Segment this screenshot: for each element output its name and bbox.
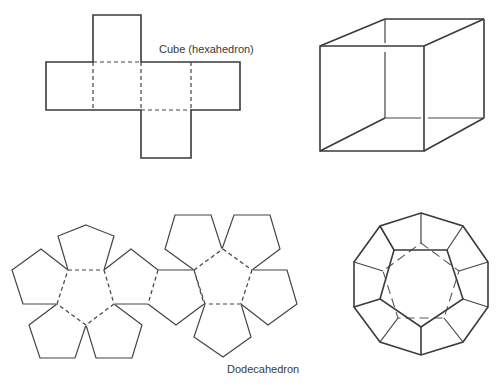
dodecahedron-net xyxy=(12,215,297,358)
cube-edge xyxy=(424,118,484,151)
net-face xyxy=(222,215,280,270)
dodecahedron-spoke xyxy=(380,226,394,250)
dodecahedron-spoke xyxy=(354,262,383,271)
dodecahedron-label: Dodecahedron xyxy=(227,363,299,375)
dodecahedron-spoke xyxy=(380,318,398,342)
polyhedra-figure: Cube (hexahedron) xyxy=(0,0,504,385)
dodecahedron-spoke xyxy=(444,318,463,342)
dodecahedron-spoke xyxy=(459,262,488,271)
cube-solid xyxy=(320,19,484,151)
dodecahedron-spoke xyxy=(463,299,488,307)
net-face xyxy=(194,304,251,357)
dodecahedron-solid xyxy=(354,213,488,355)
cube-edge xyxy=(424,19,484,46)
cube-label: Cube (hexahedron) xyxy=(159,43,254,55)
cube-front-face xyxy=(320,46,424,151)
cube-net-outline xyxy=(46,15,240,158)
net-face xyxy=(86,304,142,358)
dodecahedron-spoke xyxy=(447,226,463,250)
cube-edge xyxy=(320,19,385,46)
dodecahedron-front-face xyxy=(380,250,463,327)
cube-net xyxy=(46,15,240,158)
net-face xyxy=(58,225,114,270)
cube-edge xyxy=(320,118,385,151)
net-face xyxy=(165,215,222,270)
dodecahedron-spoke xyxy=(354,299,380,307)
net-face xyxy=(29,304,86,358)
